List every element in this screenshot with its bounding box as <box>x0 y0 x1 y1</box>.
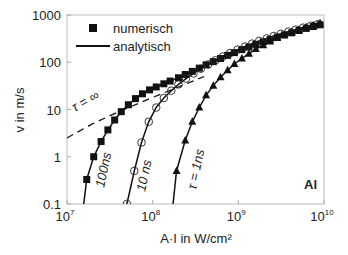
x-tick-label: 109 <box>227 208 246 224</box>
square-marker-icon <box>132 95 139 102</box>
legend-label-numerisch: numerisch <box>113 21 173 36</box>
square-marker-icon <box>160 80 167 87</box>
square-marker-icon <box>104 126 111 133</box>
y-tick-label: 100 <box>39 55 61 70</box>
y-axis-label: v in m/s <box>12 87 27 132</box>
square-marker-icon <box>111 116 118 123</box>
square-marker-icon <box>125 101 132 108</box>
square-marker-icon <box>118 108 125 115</box>
square-marker-icon <box>153 83 160 90</box>
y-tick-label: 1 <box>54 150 61 165</box>
x-tick-label: 107 <box>56 208 75 224</box>
square-marker-icon <box>83 176 90 183</box>
square-marker-icon <box>98 138 105 145</box>
square-marker-icon <box>167 78 174 85</box>
x-axis-label: A·I in W/cm² <box>160 231 232 246</box>
legend-square-marker-icon <box>89 24 97 32</box>
square-marker-icon <box>139 90 146 97</box>
chart-svg: 0.111010010001071081091010 τ = ∞100ns10 … <box>0 0 348 255</box>
x-tick-label: 1010 <box>310 208 334 224</box>
y-tick-label: 1000 <box>32 8 61 23</box>
x-tick-label: 108 <box>141 208 160 224</box>
y-tick-label: 10 <box>47 103 61 118</box>
square-marker-icon <box>146 86 153 93</box>
legend-label-analytisch: analytisch <box>113 39 171 54</box>
square-marker-icon <box>90 153 97 160</box>
annotation-label: Al <box>304 177 317 192</box>
